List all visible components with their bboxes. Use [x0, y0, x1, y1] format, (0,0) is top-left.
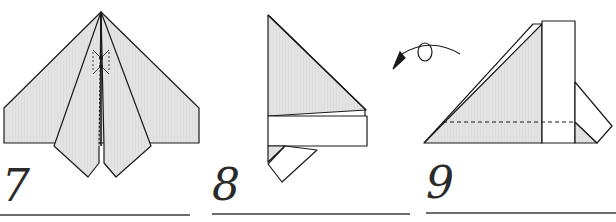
step-7-rule	[0, 214, 190, 216]
step-8-illustration	[268, 15, 367, 182]
step-9-illustration	[424, 21, 612, 143]
fold-illustrations	[0, 0, 616, 222]
origami-diagram: 7 8 9	[0, 0, 616, 222]
turn-over-arrow-icon	[393, 43, 460, 69]
step-number-7: 7	[2, 164, 30, 208]
step-8-rule	[212, 213, 410, 215]
step-9-rule	[426, 212, 616, 214]
step-number-8: 8	[212, 163, 240, 207]
step-7-illustration	[4, 12, 199, 177]
step-number-9: 9	[426, 161, 454, 205]
